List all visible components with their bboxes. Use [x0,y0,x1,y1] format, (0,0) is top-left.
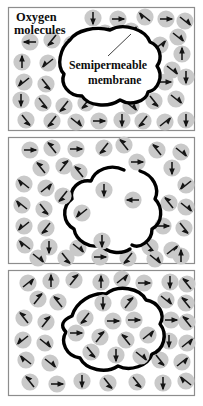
panel-top: Oxygen molecules Semipermeable membrane [9,8,195,131]
diffusion-diagram: Oxygen molecules Semipermeable membrane [0,0,203,406]
membrane-label-line2: membrane [88,74,141,87]
diagram-canvas: Oxygen molecules Semipermeable membrane [0,0,203,406]
oxygen-label-line2: molecules [14,23,66,37]
oxygen-label-line1: Oxygen [16,10,57,24]
panel-bottom [9,270,196,395]
membrane-label-line1: Semipermeable [69,59,147,72]
panel-middle [9,136,195,267]
